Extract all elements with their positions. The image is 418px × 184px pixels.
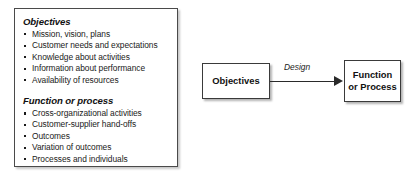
list-item-label: Outcomes (32, 131, 70, 141)
objectives-process-list-panel: Objectives Mission, vision, plans Custom… (14, 8, 178, 167)
list-item: Processes and individuals (23, 154, 171, 165)
list-item-label: Customer needs and expectations (32, 40, 158, 50)
list-item: Outcomes (23, 131, 171, 142)
connector-label: Design (284, 62, 310, 72)
section-heading-function-or-process: Function or process (23, 95, 171, 107)
list-item-label: Customer-supplier hand-offs (32, 119, 136, 129)
list-item: Knowledge about activities (23, 52, 171, 63)
bullet-icon (24, 79, 26, 81)
arrow-head-icon (334, 76, 343, 86)
list-item: Information about performance (23, 63, 171, 74)
section-heading-objectives: Objectives (23, 16, 171, 28)
list-item-label: Availability of resources (32, 75, 119, 85)
list-item-label: Processes and individuals (32, 154, 128, 164)
bullet-icon (24, 68, 26, 70)
bullet-icon (24, 158, 26, 160)
list-item-label: Knowledge about activities (32, 52, 130, 62)
list-item: Availability of resources (23, 75, 171, 86)
list-item-label: Cross-organizational activities (32, 108, 142, 118)
list-item-label: Information about performance (32, 63, 145, 73)
list-item: Customer needs and expectations (23, 40, 171, 51)
bullet-icon (24, 112, 26, 114)
bullet-icon (24, 56, 26, 58)
bullet-icon (24, 33, 26, 35)
flow-box-function-or-process-label: Function or Process (348, 69, 397, 92)
design-connector: Design (270, 62, 346, 102)
list-item: Customer-supplier hand-offs (23, 119, 171, 130)
flow-box-objectives-label: Objectives (212, 75, 259, 87)
list-item: Mission, vision, plans (23, 29, 171, 40)
connector-line (270, 81, 336, 83)
flow-box-objectives: Objectives (202, 63, 270, 99)
bullet-icon (24, 45, 26, 47)
objectives-bullet-list: Mission, vision, plans Customer needs an… (23, 29, 171, 86)
list-item-label: Variation of outcomes (32, 142, 111, 152)
bullet-icon (24, 135, 26, 137)
bullet-icon (24, 147, 26, 149)
function-process-bullet-list: Cross-organizational activities Customer… (23, 108, 171, 165)
list-item: Cross-organizational activities (23, 108, 171, 119)
bullet-icon (24, 124, 26, 126)
flow-box-function-or-process: Function or Process (344, 60, 401, 102)
list-item: Variation of outcomes (23, 142, 171, 153)
list-item-label: Mission, vision, plans (32, 29, 110, 39)
flow-diagram: Objectives Design Function or Process (196, 0, 418, 184)
